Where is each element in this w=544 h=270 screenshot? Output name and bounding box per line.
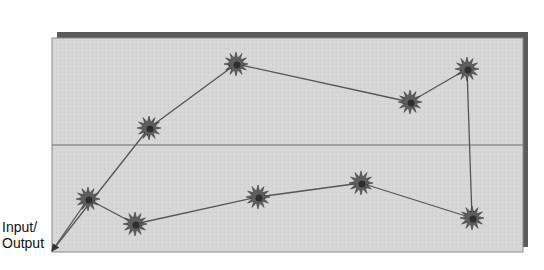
io-label-line2: Output [2, 235, 44, 251]
io-label-line1: Input/ [2, 219, 44, 235]
input-output-label: Input/ Output [2, 219, 44, 251]
diagram-canvas [0, 0, 544, 270]
